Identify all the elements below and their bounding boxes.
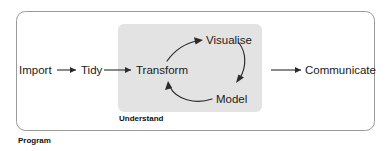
diagram-canvas: Import Tidy Transform Visualise Model Co…: [0, 0, 386, 151]
node-import: Import: [19, 64, 52, 76]
node-model: Model: [216, 93, 247, 105]
node-visualise: Visualise: [206, 34, 252, 46]
node-transform: Transform: [136, 64, 188, 76]
data-science-workflow-diagram: Import Tidy Transform Visualise Model Co…: [0, 0, 386, 151]
program-label: Program: [18, 136, 51, 145]
understand-label: Understand: [119, 114, 164, 123]
node-communicate: Communicate: [305, 64, 376, 76]
node-tidy: Tidy: [81, 64, 103, 76]
